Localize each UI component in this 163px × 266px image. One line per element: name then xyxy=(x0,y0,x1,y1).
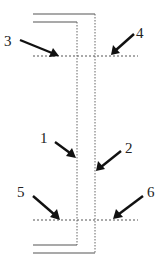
arrow-2 xyxy=(96,151,121,171)
arrow-3 xyxy=(20,40,59,57)
label-3: 3 xyxy=(4,33,12,49)
arrow-4 xyxy=(111,34,134,55)
arrow-1 xyxy=(55,142,76,158)
label-4: 4 xyxy=(136,25,144,41)
arrow-5 xyxy=(33,196,60,220)
label-5: 5 xyxy=(17,184,25,200)
label-1: 1 xyxy=(40,130,48,146)
diagram-canvas: 3 4 1 2 5 6 xyxy=(0,0,163,266)
label-2: 2 xyxy=(125,140,133,156)
arrow-6 xyxy=(113,196,143,219)
label-6: 6 xyxy=(147,184,155,200)
